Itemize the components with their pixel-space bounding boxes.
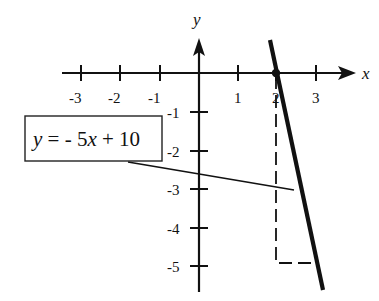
y-tick-labels: -1 -2 -3 -4 -5 (167, 105, 180, 275)
svg-text:-2: -2 (167, 144, 180, 160)
svg-text:-3: -3 (69, 90, 82, 106)
svg-text:-3: -3 (167, 182, 180, 198)
svg-text:-4: -4 (167, 221, 180, 237)
equation-label: y = - 5x + 10 (31, 127, 140, 151)
svg-text:-2: -2 (108, 90, 121, 106)
y-axis-label: y (191, 10, 201, 29)
svg-text:-1: -1 (167, 105, 180, 121)
x-axis-label: x (361, 64, 370, 83)
svg-text:1: 1 (234, 90, 242, 106)
x-intercept-dot (272, 69, 280, 77)
label-leader-line (128, 162, 294, 190)
graph-figure: x y -3 -2 -1 1 2 3 -1 -2 -3 -4 -5 (0, 0, 379, 301)
svg-text:3: 3 (312, 90, 320, 106)
svg-text:-1: -1 (148, 90, 161, 106)
svg-text:-5: -5 (167, 259, 180, 275)
